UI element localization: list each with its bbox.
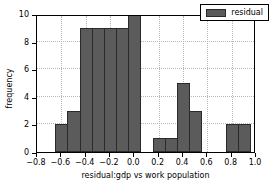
gridline-horizontal: [37, 96, 254, 97]
x-tick-mark: [36, 153, 37, 157]
x-tick-mark: [109, 153, 110, 157]
histogram-bar: [189, 111, 202, 152]
histogram-bar: [104, 28, 117, 152]
gridline-horizontal: [37, 41, 254, 42]
y-tick-mark: [32, 153, 36, 154]
gridline-vertical: [207, 16, 208, 152]
x-tick-mark: [133, 153, 134, 157]
plot-area: [36, 15, 255, 153]
legend: residual: [200, 4, 269, 21]
y-tick-mark: [32, 125, 36, 126]
x-tick-label: 1.0: [240, 158, 270, 168]
x-tick-mark: [60, 153, 61, 157]
histogram-bar: [128, 15, 141, 152]
y-tick-mark: [32, 43, 36, 44]
gridline-vertical: [159, 16, 160, 152]
y-tick-label: 0: [0, 149, 29, 157]
histogram-bar: [67, 111, 80, 152]
y-tick-mark: [32, 15, 36, 16]
x-tick-mark: [158, 153, 159, 157]
histogram-bar: [153, 138, 166, 152]
y-tick-label: 10: [0, 11, 29, 19]
legend-swatch-residual: [206, 9, 226, 17]
x-tick-mark: [255, 153, 256, 157]
histogram-bar: [177, 83, 190, 152]
legend-label-residual: residual: [231, 8, 263, 17]
gridline-horizontal: [37, 68, 254, 69]
y-tick-mark: [32, 70, 36, 71]
x-tick-mark: [182, 153, 183, 157]
y-tick-mark: [32, 98, 36, 99]
x-tick-mark: [85, 153, 86, 157]
histogram-bar: [238, 124, 251, 152]
histogram-bar: [226, 124, 239, 152]
y-tick-label: 8: [0, 39, 29, 47]
x-tick-mark: [206, 153, 207, 157]
x-axis-label: residual:gdp vs work population: [36, 171, 255, 180]
x-tick-mark: [231, 153, 232, 157]
histogram-figure: −0.8−0.6−0.4−0.20.00.20.40.60.81.0 02468…: [0, 0, 273, 191]
histogram-bar: [80, 28, 93, 152]
y-axis-label: frequency: [5, 49, 14, 129]
histogram-bar: [116, 28, 129, 152]
